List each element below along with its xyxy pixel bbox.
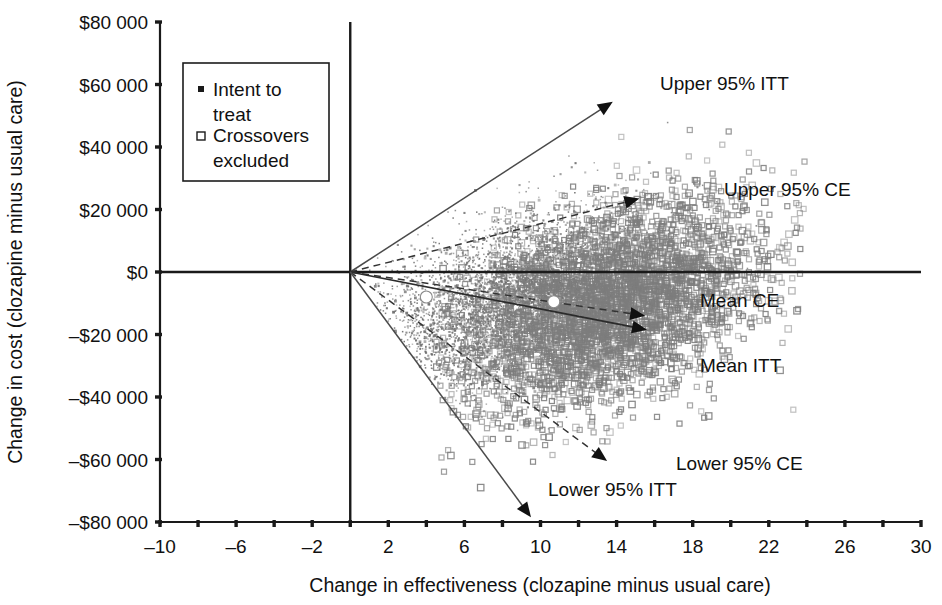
y-tick-label: $40 000 [79, 137, 148, 158]
cost-effectiveness-scatter-figure: $80 000$60 000$40 000$20 000$0–$20 000–$… [0, 0, 942, 605]
legend: Intent totreatCrossoversexcluded [183, 63, 329, 181]
x-tick-label: 18 [682, 536, 703, 557]
annotation-label-lower-95-ce: Lower 95% CE [676, 453, 803, 474]
x-tick-label: 6 [459, 536, 470, 557]
legend-label-intent-to-treat-line1: Intent to [213, 79, 282, 100]
x-tick-label: 30 [910, 536, 931, 557]
x-tick-label: 22 [758, 536, 779, 557]
annotation-label-upper-95-itt: Upper 95% ITT [660, 73, 789, 94]
x-axis-title: Change in effectiveness (clozapine minus… [309, 574, 770, 596]
arrowhead-upper-95-itt [597, 102, 613, 116]
legend-label-crossovers-excluded-line2: excluded [213, 150, 289, 171]
x-tick-label: 14 [606, 536, 628, 557]
y-tick-label: $60 000 [79, 75, 148, 96]
y-tick-label: $0 [127, 262, 148, 283]
annotation-label-upper-95-ce: Upper 95% CE [724, 179, 851, 200]
mean-itt-point [420, 291, 432, 303]
mean-ce-point [548, 296, 560, 308]
annotation-label-mean-itt: Mean ITT [700, 355, 782, 376]
legend-label-crossovers-excluded-line1: Crossovers [213, 125, 309, 146]
arrowhead-lower-95-itt [517, 501, 531, 517]
x-tick-label: –2 [302, 536, 323, 557]
chart-canvas: $80 000$60 000$40 000$20 000$0–$20 000–$… [0, 0, 942, 605]
ray-annotations-layer [350, 102, 647, 518]
legend-marker-intent-to-treat [198, 86, 204, 92]
x-tick-label: 10 [530, 536, 551, 557]
x-tick-label: 2 [383, 536, 394, 557]
x-tick-label: –10 [144, 536, 176, 557]
y-axis-title: Change in cost (clozapine minus usual ca… [4, 80, 26, 464]
x-tick-label: 26 [834, 536, 855, 557]
legend-label-intent-to-treat-line2: treat [213, 104, 252, 125]
y-tick-label: $20 000 [79, 200, 148, 221]
x-tick-label: –6 [226, 536, 247, 557]
y-tick-label: –$40 000 [69, 387, 148, 408]
annotation-label-mean-ce: Mean CE [700, 290, 779, 311]
y-tick-label: $80 000 [79, 12, 148, 33]
y-tick-label: –$80 000 [69, 512, 148, 533]
y-tick-label: –$20 000 [69, 325, 148, 346]
annotation-label-lower-95-itt: Lower 95% ITT [548, 479, 677, 500]
y-tick-label: –$60 000 [69, 450, 148, 471]
arrowhead-lower-95-ce [591, 447, 607, 461]
